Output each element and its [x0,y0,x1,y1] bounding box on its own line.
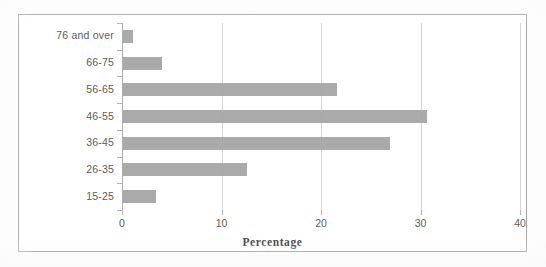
x-tick-mark-40 [520,210,521,215]
bar [123,57,162,70]
bar-row [123,76,337,103]
y-axis-label: 46-55 [16,110,114,122]
x-tick-label-0: 0 [119,217,125,229]
x-tick-mark-30 [421,210,422,215]
bar-row [123,157,247,184]
y-axis-label: 36-45 [16,136,114,148]
y-tick-mark [117,23,122,24]
bar-row [123,23,133,50]
x-tick-label-30: 30 [415,217,427,229]
bar [123,163,247,176]
chart-figure: 76 and over66-7556-6546-5536-4526-3515-2… [0,0,546,267]
x-tick-label-40: 40 [514,217,526,229]
y-tick-mark [117,103,122,104]
x-tick-label-10: 10 [216,217,228,229]
x-tick-mark-0 [122,210,123,215]
bar [123,83,337,96]
y-axis-label: 56-65 [16,83,114,95]
chart-frame: 76 and over66-7556-6546-5536-4526-3515-2… [18,14,527,252]
y-axis-label: 76 and over [16,29,114,41]
y-tick-mark [117,183,122,184]
y-axis-label: 66-75 [16,56,114,68]
bar [123,190,156,203]
bar [123,30,133,43]
x-tick-label-20: 20 [315,217,327,229]
bar-row [123,130,390,157]
x-tick-mark-20 [321,210,322,215]
bar [123,137,390,150]
y-axis-labels: 76 and over66-7556-6546-5536-4526-3515-2… [19,23,114,210]
x-axis-title: Percentage [19,236,526,248]
bar-row [123,103,427,130]
bar-row [123,183,156,210]
gridline-40 [520,23,521,210]
y-axis-label: 15-25 [16,190,114,202]
y-tick-mark [117,76,122,77]
bar [123,110,427,123]
x-tick-mark-10 [222,210,223,215]
bar-row [123,50,162,77]
y-tick-mark [117,157,122,158]
y-axis-label: 26-35 [16,163,114,175]
y-tick-mark [117,130,122,131]
y-tick-mark [117,50,122,51]
